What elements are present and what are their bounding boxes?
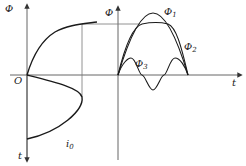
current-label: i0 bbox=[66, 138, 74, 151]
phi1-label: Φ1 bbox=[164, 6, 177, 19]
left-phi-label: Φ bbox=[5, 3, 13, 14]
right-phi-label: Φ bbox=[105, 7, 113, 18]
current-waveform bbox=[27, 75, 82, 139]
phi3-label: Φ3 bbox=[135, 58, 148, 71]
phi2-label: Φ2 bbox=[184, 41, 197, 54]
flux-phi3-curve bbox=[118, 58, 188, 90]
flux-waveform-diagram: Φ O t i0 Φ t Φ1 Φ2 Φ3 bbox=[0, 0, 246, 166]
right-t-label: t bbox=[232, 77, 237, 88]
flux-phi2-curve bbox=[118, 23, 188, 76]
origin-label: O bbox=[14, 75, 22, 86]
left-t-label: t bbox=[18, 150, 23, 161]
magnetization-curve bbox=[27, 22, 97, 75]
